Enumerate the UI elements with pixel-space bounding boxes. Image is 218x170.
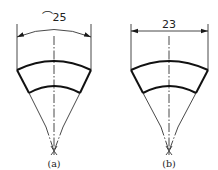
dimension-label-b: 23 — [162, 18, 176, 31]
side-edge-left — [17, 70, 29, 93]
radial-line-left — [143, 93, 161, 127]
radial-center-left — [161, 127, 169, 151]
arc-dimension-line — [17, 30, 91, 38]
radial-center-left — [46, 127, 54, 151]
figure-b: 23 (b) — [131, 18, 208, 169]
drawing-canvas: ⌒25 (a) 23 (b) — [0, 0, 218, 170]
radial-center-right — [54, 127, 63, 151]
inner-arc — [143, 86, 196, 93]
side-edge-right — [80, 70, 91, 93]
side-edge-right — [196, 70, 208, 93]
radial-line-left — [29, 93, 46, 127]
side-edge-left — [131, 70, 143, 93]
dimension-label-a: ⌒25 — [42, 11, 67, 24]
figure-a: ⌒25 (a) — [17, 11, 91, 169]
radial-center-right — [169, 127, 178, 151]
outer-arc — [131, 61, 208, 70]
inner-arc — [29, 86, 80, 93]
radial-line-right — [63, 93, 80, 127]
caption-a: (a) — [47, 158, 60, 169]
radial-line-right — [178, 93, 196, 127]
caption-b: (b) — [162, 158, 176, 169]
